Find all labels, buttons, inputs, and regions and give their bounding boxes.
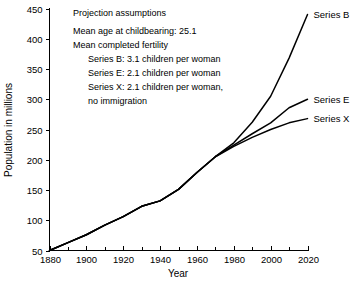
x-axis-minor-ticks — [69, 247, 290, 251]
y-tick-label: 200 — [27, 155, 43, 166]
x-tick-label: 1900 — [76, 254, 97, 265]
y-tick-label: 350 — [27, 64, 43, 75]
series-line-series-e — [50, 99, 308, 250]
y-axis-tick-labels: 50100150200250300350400450 — [27, 4, 43, 257]
y-tick-label: 100 — [27, 215, 43, 226]
x-axis-tick-labels: 18801900192019401960198020002020 — [40, 254, 319, 265]
annotation-heading: Projection assumptions — [73, 8, 167, 18]
series-label-series-b: Series B — [314, 9, 350, 20]
series-label-series-e: Series E — [314, 94, 350, 105]
chart-canvas: 50100150200250300350400450 1880190019201… — [0, 0, 362, 284]
projection-assumptions-annotation: Projection assumptions Mean age at child… — [73, 8, 223, 106]
annotation-series-x: Series X: 2.1 children per woman, — [88, 82, 223, 92]
y-axis-ticks — [46, 10, 50, 252]
y-tick-label: 250 — [27, 125, 43, 136]
y-tick-label: 400 — [27, 34, 43, 45]
series-inline-labels: Series BSeries ESeries X — [314, 9, 351, 124]
y-tick-label: 300 — [27, 94, 43, 105]
x-tick-label: 2020 — [298, 254, 319, 265]
population-projection-chart: 50100150200250300350400450 1880190019201… — [0, 0, 362, 284]
x-tick-label: 1880 — [40, 254, 61, 265]
x-tick-label: 1940 — [150, 254, 171, 265]
x-tick-label: 1980 — [224, 254, 245, 265]
series-label-series-x: Series X — [314, 113, 351, 124]
series-line-series-x — [50, 119, 308, 251]
x-tick-label: 1920 — [113, 254, 134, 265]
annotation-line-1: Mean age at childbearing: 25.1 — [73, 26, 197, 36]
y-axis-title: Population in millions — [3, 83, 14, 177]
x-tick-label: 2000 — [261, 254, 282, 265]
annotation-series-x-cont: no immigration — [88, 96, 147, 106]
annotation-series-e: Series E: 2.1 children per woman — [88, 68, 221, 78]
annotation-line-2: Mean completed fertility — [73, 40, 169, 50]
x-axis: 18801900192019401960198020002020 — [40, 246, 319, 265]
y-axis: 50100150200250300350400450 — [27, 4, 50, 257]
y-tick-label: 150 — [27, 185, 43, 196]
annotation-series-b: Series B: 3.1 children per woman — [88, 54, 221, 64]
x-axis-title: Year — [168, 268, 189, 279]
x-tick-label: 1960 — [187, 254, 208, 265]
y-tick-label: 450 — [27, 4, 43, 15]
